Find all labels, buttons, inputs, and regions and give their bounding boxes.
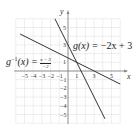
y-tick-label: −4 — [60, 103, 66, 109]
x-tick-label: −4 — [30, 73, 36, 79]
g-label: g(x) = −2x + 3 — [73, 41, 132, 51]
y-axis-label: y — [60, 8, 64, 16]
y-tick-label: 3 — [63, 42, 66, 48]
fraction: x − 3−2 — [40, 57, 51, 70]
g-inverse-label: g−1(x) = x − 3−2 — [6, 56, 51, 70]
y-tick-label: −3 — [60, 94, 66, 100]
y-tick-label: −1 — [60, 77, 66, 83]
y-axis — [67, 10, 70, 124]
x-axis-label: x — [127, 73, 131, 81]
y-tick-label: −2 — [60, 85, 66, 91]
x-tick-label: 1 — [75, 73, 78, 79]
x-tick-label: −5 — [22, 73, 28, 79]
x-tick-label: 3 — [93, 73, 96, 79]
x-tick-label: −2 — [48, 73, 54, 79]
y-tick-label: 1 — [63, 59, 66, 65]
x-tick-label: −3 — [39, 73, 45, 79]
y-tick-label: −5 — [60, 112, 66, 118]
x-tick-label: 5 — [110, 73, 113, 79]
y-tick-label: 5 — [63, 25, 66, 31]
